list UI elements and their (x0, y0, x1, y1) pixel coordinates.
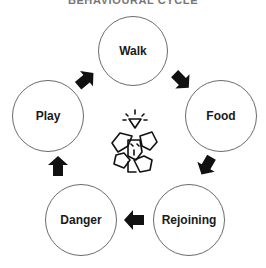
arrow-walk-to-food (168, 67, 196, 95)
arrow-rejoining-to-danger (124, 210, 144, 230)
arrow-play-to-walk (72, 65, 100, 93)
dog-with-lightbulb-icon (112, 110, 157, 172)
lightbulb-icon (123, 110, 147, 128)
diagram-graphics (0, 0, 266, 268)
dog-icon (112, 132, 157, 172)
arrow-danger-to-play (48, 156, 68, 176)
arrow-food-to-rejoining (193, 152, 220, 179)
